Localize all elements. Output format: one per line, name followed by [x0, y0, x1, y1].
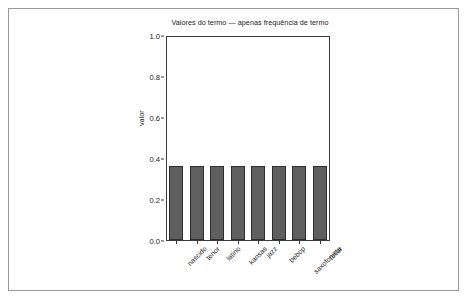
y-tick-label: 1.0 — [149, 32, 160, 41]
x-tick-label: jazz — [265, 245, 279, 259]
y-axis-tick-labels: 0.00.20.40.60.81.0 — [140, 30, 164, 247]
y-tick-label: 0.8 — [149, 73, 160, 82]
x-tick-mark — [279, 241, 280, 244]
x-tick-mark — [320, 241, 321, 244]
y-tick-mark — [161, 159, 164, 160]
plot-area — [166, 36, 330, 241]
y-tick-mark — [161, 200, 164, 201]
x-axis-tick-labels: nascidotenorlatinokansasjazzbebopsaxofon… — [166, 245, 330, 295]
x-tick-label: tocar — [327, 245, 343, 261]
page-root: Valores do termo — apenas frequência de … — [0, 0, 469, 301]
bar — [292, 166, 306, 240]
x-tick-mark — [238, 241, 239, 244]
x-tick-label: latino — [225, 245, 242, 262]
bar — [169, 166, 183, 240]
y-tick-label: 0.4 — [149, 155, 160, 164]
x-tick-mark — [197, 241, 198, 244]
bar — [231, 166, 245, 240]
x-tick-label: kansas — [247, 245, 268, 266]
bar-chart-figure: Valores do termo — apenas frequência de … — [0, 0, 469, 301]
chart-title: Valores do termo — apenas frequência de … — [120, 18, 380, 27]
y-tick-mark — [161, 118, 164, 119]
bar — [190, 166, 204, 240]
bar — [313, 166, 327, 240]
bar — [272, 166, 286, 240]
y-tick-mark — [161, 36, 164, 37]
bar-series — [167, 37, 329, 240]
x-tick-label: tenor — [204, 245, 220, 261]
x-tick-mark — [217, 241, 218, 244]
bar — [251, 166, 265, 240]
x-tick-mark — [176, 241, 177, 244]
x-tick-mark — [299, 241, 300, 244]
y-tick-label: 0.0 — [149, 237, 160, 246]
y-tick-label: 0.2 — [149, 196, 160, 205]
x-tick-label: bebop — [287, 245, 306, 264]
y-tick-label: 0.6 — [149, 114, 160, 123]
x-tick-mark — [258, 241, 259, 244]
bar — [210, 166, 224, 240]
y-tick-mark — [161, 241, 164, 242]
y-tick-mark — [161, 77, 164, 78]
